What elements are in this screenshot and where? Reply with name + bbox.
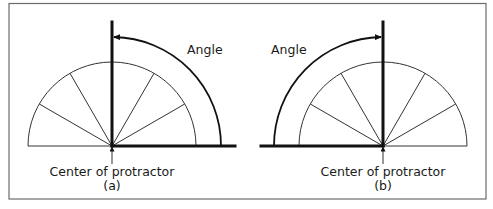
center-label-a: Center of protractor (50, 164, 176, 179)
caption-b: (b) (374, 178, 392, 193)
protractor-diagram: Angle Center of protractor (a) Angle Cen… (0, 0, 493, 209)
panel-a: Angle Center of protractor (a) (28, 22, 235, 193)
angle-label-b: Angle (271, 42, 307, 57)
caption-a: (a) (103, 178, 120, 193)
angle-label-a: Angle (187, 42, 223, 57)
panel-b: Angle Center of protractor (b) (261, 22, 467, 193)
center-label-b: Center of protractor (321, 164, 447, 179)
